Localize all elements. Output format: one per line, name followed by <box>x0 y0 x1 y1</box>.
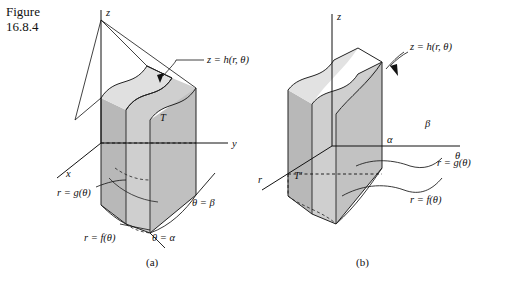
panel-a-caption: (a) <box>146 256 158 268</box>
label-a-inner-radius: r = g(θ) <box>57 187 91 199</box>
axis-a-x-label: x <box>65 168 71 179</box>
solid-b-left-face <box>288 90 312 214</box>
figure-container: Figure16.8.4 <box>0 0 509 283</box>
label-a-theta-beta: θ = β <box>192 197 215 208</box>
axis-a-x <box>57 143 101 178</box>
axis-b-z-label: z <box>336 11 341 22</box>
solid-b-top-cap-edge <box>358 48 382 62</box>
ray-a-left-connect <box>75 98 101 120</box>
axis-a-z-label: z <box>105 7 110 18</box>
panel-b-caption: (b) <box>356 256 369 268</box>
ray-a-left <box>75 20 101 120</box>
ray-a-upper-mid <box>101 20 147 66</box>
panel-a-drawing: z y x z = h(r, θ) T r = g(θ) r = f(θ) θ … <box>0 0 509 283</box>
axis-b-r-label: r <box>258 174 263 185</box>
label-b-beta: β <box>424 118 431 129</box>
label-b-alpha: α <box>387 134 393 145</box>
label-a-outer-radius: r = f(θ) <box>84 232 116 244</box>
leader-b-surface-2 <box>390 52 408 66</box>
axis-a-y-label: y <box>231 138 237 149</box>
leader-a-surface-curve <box>163 60 176 76</box>
label-a-surface: z = h(r, θ) <box>206 54 249 66</box>
label-b-outer-radius: r = f(θ) <box>410 194 442 206</box>
label-b-surface: z = h(r, θ) <box>409 41 452 53</box>
line-a-theta-beta <box>196 173 215 195</box>
label-a-theta-alpha: θ = α <box>152 232 175 243</box>
solid-a-left-face <box>101 98 126 224</box>
label-b-solid: T′ <box>294 170 303 181</box>
label-b-inner-radius: r = g(θ) <box>437 157 471 169</box>
arrow-b-surface <box>390 64 398 76</box>
